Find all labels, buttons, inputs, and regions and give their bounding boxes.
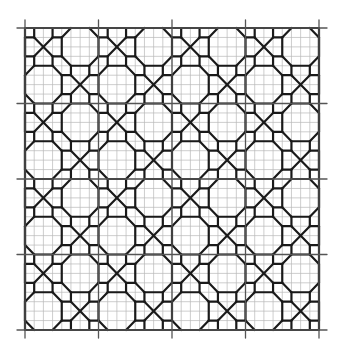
major-grid xyxy=(17,20,327,338)
pattern-figure xyxy=(0,0,349,363)
